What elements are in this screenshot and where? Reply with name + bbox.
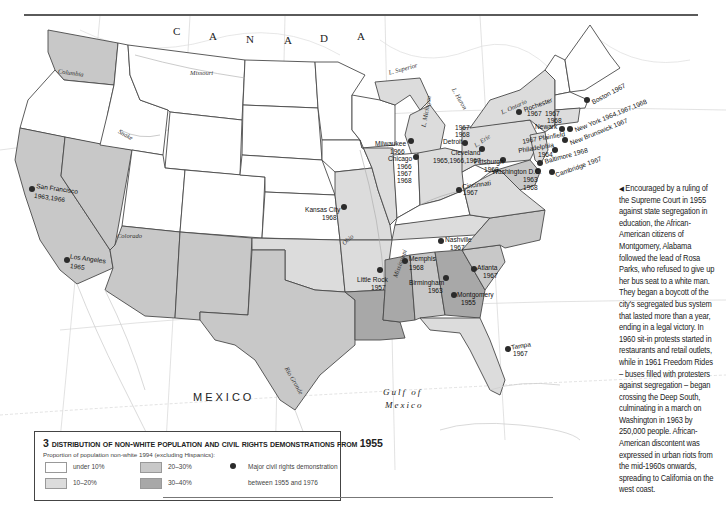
caption-text: ◀Encouraged by a ruling of the Supreme C… — [619, 183, 715, 496]
demo-marker-new-york — [567, 126, 573, 132]
city-label-cincinnati-year: 1967 — [463, 189, 478, 197]
city-label-little-rock-year: 1957 — [371, 284, 386, 292]
legend-title-text: Distribution of non-white population and… — [52, 439, 358, 449]
demo-marker-kansas-city — [341, 204, 347, 210]
canada-label-a1: A — [209, 30, 217, 42]
city-label-washington-year2: 1968 — [523, 184, 538, 192]
city-label-kansas-city-year: 1968 — [322, 214, 337, 222]
legend-swatch-10-20 — [45, 478, 67, 489]
demo-marker-baltimore — [537, 160, 543, 166]
city-label-montgomery-year: 1955 — [461, 299, 476, 307]
legend-symbol-label-1: Major civil rights demonstration — [248, 463, 338, 470]
city-label-birmingham-year: 1963 — [428, 287, 443, 295]
city-label-rochester-year: 1967 — [527, 110, 542, 118]
state-new-mexico — [175, 232, 252, 320]
canada-label-a3: A — [357, 30, 365, 42]
canada-label-c: C — [173, 25, 182, 37]
mexico-label: MEXICO — [193, 391, 254, 403]
legend-swatch-30-40 — [140, 478, 162, 489]
legend-subtitle: Proportion of population non-white 1994 … — [43, 451, 215, 458]
gulf-label-2: Mexico — [385, 400, 423, 410]
map-legend: 3Distribution of non-white population an… — [34, 431, 341, 501]
canada-label-n: N — [246, 33, 254, 45]
caption-body: Encouraged by a ruling of the Supreme Co… — [619, 184, 714, 494]
demo-marker-detroit — [462, 140, 468, 146]
legend-symbol-label-2: between 1955 and 1976 — [248, 479, 318, 486]
gulf-label-1: Gulf of — [383, 387, 422, 397]
city-label-pittsburgh-year: 1968 — [484, 166, 499, 174]
legend-title-year: 1955 — [360, 437, 383, 449]
city-label-little-rock: Little Rock — [357, 276, 388, 284]
city-label-milwaukee: Milwaukee — [375, 140, 406, 148]
legend-label-under-10: under 10% — [73, 463, 104, 470]
canada-label-a2: A — [284, 34, 292, 46]
city-label-nashville-year: 1967 — [450, 244, 465, 252]
city-label-birmingham: Birmingham — [409, 279, 444, 287]
bottom-rule — [163, 497, 553, 498]
states — [15, 25, 620, 410]
city-label-montgomery: Montgomery — [457, 291, 494, 299]
pointer-arrow-icon: ◀ — [619, 185, 623, 192]
city-label-kansas-city: Kansas City — [305, 206, 340, 214]
city-label-washington-year1: 1963 — [523, 176, 538, 184]
city-label-cleveland-years: 1965,1966,1967 — [433, 157, 481, 165]
city-label-memphis-year: 1968 — [409, 264, 424, 272]
city-label-cleveland: Cleveland — [451, 149, 480, 157]
legend-label-20-30: 20–30% — [168, 463, 192, 470]
city-label-memphis: Memphis — [409, 255, 436, 263]
city-label-chicago-year3: 1968 — [397, 177, 412, 185]
canada-label-d: D — [320, 32, 328, 44]
missouri-river-label: Missouri — [190, 69, 213, 76]
legend-swatch-under-10 — [45, 462, 67, 473]
city-label-tampa-year: 1967 — [513, 350, 528, 358]
city-label-atlanta-year: 1967 — [483, 272, 498, 280]
city-label-washington: Washington D.C. — [492, 168, 542, 176]
demo-marker-new-brunswick — [562, 137, 568, 143]
demo-marker-boston — [584, 97, 590, 103]
legend-demonstration-symbol-icon — [230, 463, 236, 469]
demo-marker-nashville — [438, 238, 444, 244]
city-label-atlanta: Atlanta — [477, 264, 498, 272]
legend-label-10-20: 10–20% — [73, 479, 97, 486]
state-florida — [420, 318, 505, 395]
colorado-river-label: Colorado — [117, 232, 142, 239]
city-label-detroit: Detroit — [443, 138, 462, 146]
city-label-chicago: Chicago — [388, 155, 412, 163]
legend-number: 3 — [43, 437, 49, 449]
demo-marker-cincinnati — [456, 187, 462, 193]
city-label-newark: Newark — [535, 123, 557, 131]
demo-marker-little-rock — [377, 267, 383, 273]
legend-label-30-40: 30–40% — [168, 479, 192, 486]
demo-marker-memphis — [402, 258, 408, 264]
legend-swatch-20-30 — [140, 462, 162, 473]
demo-marker-rochester — [516, 109, 522, 115]
demo-marker-milwaukee — [408, 138, 414, 144]
legend-title: 3Distribution of non-white population an… — [43, 437, 383, 449]
demo-marker-chicago — [413, 154, 419, 160]
city-label-nashville: Nashville — [445, 236, 472, 244]
